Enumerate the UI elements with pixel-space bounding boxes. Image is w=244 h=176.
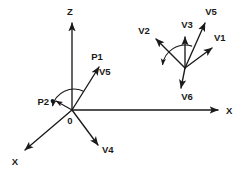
vector-v3-label: V3 [181, 19, 193, 30]
axis-x-front-label: X [12, 156, 19, 167]
vector-v6-line [181, 68, 185, 88]
vector-v2-line [156, 39, 185, 68]
vector-v4-label: V4 [102, 144, 114, 155]
vector-v1-label: V1 [214, 32, 226, 43]
axis-z-label: Z [67, 6, 73, 17]
point-p1-label: P1 [91, 51, 103, 62]
vector-v2-label: V2 [138, 25, 150, 36]
vector-p1-v5-line [72, 67, 99, 110]
vector-diagram-figure: Z X X P1 V5 P2 V4 0 [0, 0, 244, 176]
origin-label: 0 [67, 115, 72, 126]
vector-v4-line [72, 110, 98, 145]
axis-x-right-label: X [226, 105, 233, 116]
vector-p2-line [56, 101, 72, 110]
vector-v5-left-label: V5 [99, 66, 111, 77]
axis-x-front-line [25, 110, 72, 150]
point-p2-label: P2 [37, 96, 49, 107]
vector-v6-label: V6 [181, 91, 193, 102]
diagram-canvas: Z X X P1 V5 P2 V4 0 [0, 0, 244, 176]
vector-v5-right-label: V5 [205, 6, 217, 17]
left-angle-arc [53, 89, 84, 106]
left-coordinate-system: Z X X P1 V5 P2 V4 0 [12, 6, 233, 167]
right-vector-fan: V2 V3 V5 V1 V6 [138, 6, 226, 102]
